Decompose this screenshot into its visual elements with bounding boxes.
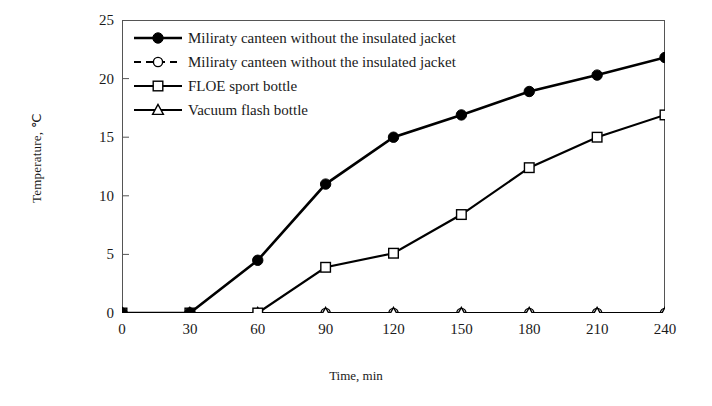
x-tick-label: 30 xyxy=(160,322,220,337)
series-line xyxy=(122,115,665,313)
data-point-marker xyxy=(320,179,330,189)
y-tick-label: 25 xyxy=(80,13,114,28)
data-point-marker xyxy=(389,248,399,258)
y-tick-label: 5 xyxy=(80,247,114,262)
data-point-marker xyxy=(321,262,331,272)
x-axis-tick-labels: 0306090120150180210240 xyxy=(0,322,712,346)
data-point-marker xyxy=(457,210,467,220)
legend-marker-filled-circle-icon xyxy=(132,28,184,48)
legend-item[interactable]: FLOE sport bottle xyxy=(132,74,552,98)
data-point-marker xyxy=(253,255,263,265)
data-point-marker xyxy=(153,81,163,91)
legend-marker-open-square-icon xyxy=(132,76,184,96)
data-point-marker xyxy=(388,132,398,142)
data-point-marker xyxy=(592,70,602,80)
legend-marker-open-triangle-icon xyxy=(132,100,184,120)
legend-item[interactable]: Vacuum flash bottle xyxy=(132,98,552,122)
chart-legend: Miliraty canteen without the insulated j… xyxy=(132,26,552,122)
x-tick-label: 0 xyxy=(92,322,152,337)
x-tick-label: 150 xyxy=(431,322,491,337)
x-tick-label: 180 xyxy=(499,322,559,337)
y-tick-label: 10 xyxy=(80,188,114,203)
data-point-marker xyxy=(524,163,534,173)
y-tick-label: 15 xyxy=(80,130,114,145)
y-tick-label: 20 xyxy=(80,71,114,86)
data-point-marker xyxy=(660,110,665,120)
x-tick-label: 90 xyxy=(296,322,356,337)
data-point-marker xyxy=(660,52,665,62)
data-point-marker xyxy=(153,57,162,66)
data-point-marker xyxy=(592,132,602,142)
legend-label: Vacuum flash bottle xyxy=(184,102,308,119)
x-tick-label: 210 xyxy=(567,322,627,337)
data-point-marker xyxy=(153,33,163,43)
legend-item[interactable]: Miliraty canteen without the insulated j… xyxy=(132,50,552,74)
legend-marker-open-circle-icon xyxy=(132,52,184,72)
y-axis-title: Temperature, ℃ xyxy=(29,73,45,243)
legend-label: FLOE sport bottle xyxy=(184,78,297,95)
chart-figure: Temperature, ℃ Time, min 0510152025 0306… xyxy=(0,0,712,406)
legend-label: Miliraty canteen without the insulated j… xyxy=(184,54,456,71)
legend-label: Miliraty canteen without the insulated j… xyxy=(184,30,456,47)
x-tick-label: 240 xyxy=(635,322,695,337)
x-tick-label: 120 xyxy=(364,322,424,337)
data-point-marker xyxy=(253,308,263,313)
x-tick-label: 60 xyxy=(228,322,288,337)
y-tick-label: 0 xyxy=(80,306,114,321)
legend-item[interactable]: Miliraty canteen without the insulated j… xyxy=(132,26,552,50)
